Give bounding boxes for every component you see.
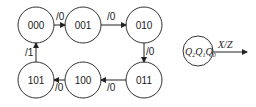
state-010: 010: [126, 7, 162, 43]
transition-101-000: /1: [25, 43, 36, 62]
transition-label: /0: [56, 11, 65, 22]
legend-state-vars: Q2Q1Q0: [185, 46, 216, 58]
state-011: 011: [126, 62, 162, 98]
state-label: 100: [75, 75, 92, 86]
transition-label: /0: [107, 82, 116, 93]
legend: Q2Q1Q0 X/Z: [183, 36, 247, 66]
state-001: 001: [65, 7, 101, 43]
transition-label: /0: [146, 46, 155, 57]
transition-100-101: /0: [54, 80, 65, 93]
state-100: 100: [65, 62, 101, 98]
transition-label: /0: [107, 11, 116, 22]
state-label: 000: [28, 20, 45, 31]
transition-001-010: /0: [101, 11, 126, 25]
transition-label: /1: [25, 47, 34, 58]
state-label: 010: [136, 20, 153, 31]
state-000: 000: [18, 7, 54, 43]
state-101: 101: [18, 62, 54, 98]
transition-000-001: /0: [54, 11, 65, 25]
transition-011-100: /0: [101, 80, 126, 93]
transition-010-011: /0: [144, 43, 155, 62]
state-label: 011: [136, 75, 152, 86]
state-label: 101: [28, 75, 45, 86]
state-label: 001: [75, 20, 92, 31]
state-diagram: 000 001 010 011 100 101 /0 /0 /0 /0 /0: [0, 0, 256, 107]
transition-label: /0: [55, 82, 64, 93]
legend-io-label: X/Z: [217, 39, 233, 50]
